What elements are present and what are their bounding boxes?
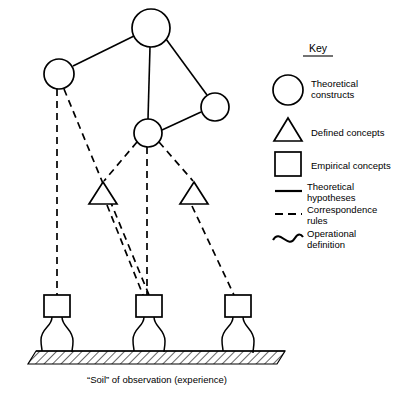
key-label-theoretical-hypotheses-line1: Theoretical <box>307 181 354 192</box>
edge-top-to-center <box>148 47 150 119</box>
edge-right-triangle-to-right-square <box>192 206 234 295</box>
key-symbol-wavy-line-icon <box>273 235 303 242</box>
key-label-operational-definition-line1: Operational <box>307 228 356 239</box>
edge-center-circle-to-left-triangle <box>104 142 137 181</box>
square-node-left <box>44 295 70 317</box>
root-right-b <box>243 317 254 353</box>
circle-node-center <box>134 119 162 147</box>
diagram-canvas: “Soil” of observation (experience) Key T… <box>0 0 401 397</box>
circle-node-top <box>132 9 170 47</box>
key-panel: Key Theoretical constructs Defined conce… <box>273 42 391 250</box>
key-label-correspondence-rules-line1: Correspondence <box>307 204 377 215</box>
triangle-node-left <box>89 182 117 204</box>
theoretical-hypothesis-edges <box>73 36 207 130</box>
circle-node-left <box>44 59 74 89</box>
edge-left-triangle-to-center-square <box>107 205 143 295</box>
theoretical-construct-nodes <box>44 9 229 147</box>
edge-top-to-right <box>166 39 207 95</box>
key-label-theoretical-constructs-line2: constructs <box>311 89 355 100</box>
key-label-empirical-concepts: Empirical concepts <box>311 160 391 171</box>
diagram-caption: “Soil” of observation (experience) <box>87 374 227 385</box>
key-symbol-circle-icon <box>273 75 303 105</box>
key-label-theoretical-hypotheses-line2: hypotheses <box>307 192 356 203</box>
empirical-concept-nodes <box>44 295 251 317</box>
key-label-correspondence-rules-line2: rules <box>307 215 328 226</box>
soil-ground-band <box>28 351 285 364</box>
edge-center-circle-to-right-triangle <box>159 142 193 181</box>
diagram-root: “Soil” of observation (experience) Key T… <box>0 0 401 397</box>
key-title: Key <box>309 42 328 54</box>
root-center-a <box>133 317 144 351</box>
root-left-a <box>41 317 52 351</box>
square-node-center <box>136 295 162 317</box>
operational-definition-roots <box>41 317 254 353</box>
key-label-defined-concepts: Defined concepts <box>311 127 385 138</box>
key-label-theoretical-constructs-line1: Theoretical <box>311 78 358 89</box>
key-label-operational-definition-line2: definition <box>307 239 345 250</box>
soil-hatched-area <box>28 351 285 364</box>
edge-top-to-left <box>73 36 134 66</box>
key-symbol-square-icon <box>275 152 301 176</box>
key-symbol-triangle-icon <box>274 118 302 141</box>
square-node-right <box>225 295 251 317</box>
defined-concept-nodes <box>89 182 208 204</box>
edge-right-to-center <box>162 112 201 130</box>
root-center-b <box>154 317 165 352</box>
root-left-b <box>62 317 73 352</box>
root-right-a <box>222 317 233 351</box>
circle-node-right <box>201 93 229 121</box>
triangle-node-right <box>180 182 208 204</box>
